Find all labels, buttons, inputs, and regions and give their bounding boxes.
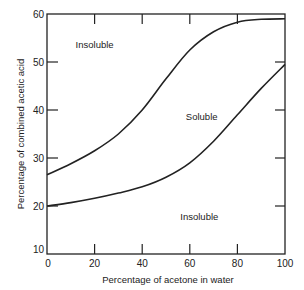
x-tick-label: 40: [137, 258, 149, 269]
x-tick-label: 100: [277, 258, 294, 269]
x-tick-label: 60: [184, 258, 196, 269]
y-axis-label: Percentage of combined acetic acid: [15, 59, 26, 210]
region-label: Insoluble: [76, 39, 114, 50]
y-tick-label: 10: [33, 244, 45, 255]
x-tick-label: 0: [45, 258, 51, 269]
x-axis-label: Percentage of acetone in water: [102, 274, 234, 285]
x-tick-label: 20: [89, 258, 101, 269]
x-tick-label: 80: [232, 258, 244, 269]
plot-frame: [47, 14, 285, 254]
y-tick-label: 60: [33, 9, 45, 20]
y-tick-label: 50: [33, 57, 45, 68]
series-line: [47, 64, 285, 206]
region-label: Soluble: [186, 111, 218, 122]
chart: 020406080100102030405060InsolubleSoluble…: [0, 0, 304, 290]
y-tick-label: 20: [33, 201, 45, 212]
y-tick-label: 30: [33, 153, 45, 164]
y-tick-label: 40: [33, 105, 45, 116]
line-chart: 020406080100102030405060InsolubleSoluble…: [0, 0, 304, 290]
region-label: Insoluble: [180, 211, 218, 222]
